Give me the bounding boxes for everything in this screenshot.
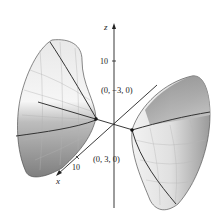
z-axis: z 10 — [100, 22, 116, 208]
vertex-point-right — [130, 128, 134, 132]
x-tick-label: 10 — [72, 163, 80, 172]
point-label-pos: (0, 3, 0) — [93, 154, 120, 164]
left-sheet — [16, 40, 98, 177]
right-sheet — [130, 76, 210, 210]
point-label-neg: (0, −3, 0) — [101, 85, 133, 95]
x-axis-label: x — [55, 176, 60, 186]
hyperboloid-diagram: z 10 10 y 10 x — [0, 0, 224, 222]
z-axis-label: z — [103, 22, 108, 32]
z-tick-label: 10 — [100, 57, 108, 66]
